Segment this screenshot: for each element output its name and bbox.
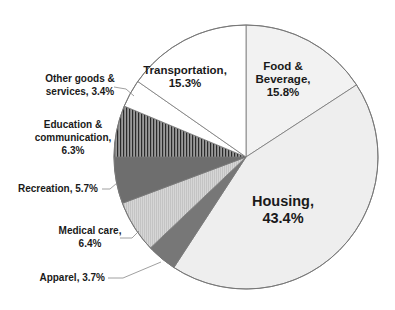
leader-line bbox=[120, 231, 139, 238]
leader-line bbox=[108, 262, 161, 278]
slice-label: Medical care,6.4% bbox=[59, 225, 122, 249]
slice-label: Other goods &services, 3.4% bbox=[45, 73, 114, 97]
slice-label: Recreation, 5.7% bbox=[18, 183, 98, 194]
pie-chart: Food &Beverage,15.8%Housing,43.4%Apparel… bbox=[0, 0, 395, 310]
leader-line bbox=[102, 183, 117, 189]
slice-label: Education &communication,6.3% bbox=[35, 119, 112, 156]
slice-label: Apparel, 3.7% bbox=[39, 272, 105, 283]
